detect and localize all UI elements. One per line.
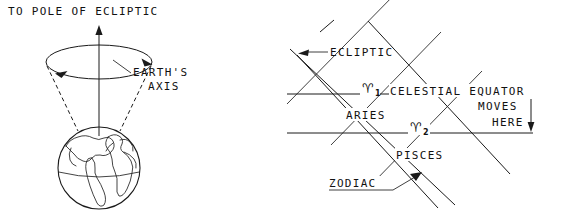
precession-figure: TO POLE OF ECLIPTIC	[0, 0, 574, 218]
earths-axis-leader	[113, 60, 131, 73]
aries-symbol-1-group: ♈ 1	[360, 80, 381, 98]
ecliptic-leader-arrowhead	[298, 50, 309, 57]
continent-na-detail	[69, 148, 76, 166]
pisces-label: PISCES	[396, 149, 444, 162]
moves-here-arrowhead	[528, 122, 535, 132]
earths-axis-label-line2: AXIS	[148, 80, 180, 93]
aries-label: ARIES	[346, 109, 386, 122]
ecliptic-label: ECLIPTIC	[330, 46, 393, 59]
ecliptic-line-stub	[320, 20, 334, 32]
aries-symbol-2-subscript: 2	[423, 128, 429, 137]
moves-label-line2: HERE	[492, 116, 524, 129]
right-panel-group: ECLIPTIC CELESTIAL EQUATOR MOVES HERE ♈ …	[287, 0, 574, 208]
earths-axis-label-line1: EARTH'S	[133, 66, 188, 79]
earth-axis-arrowhead	[95, 25, 102, 35]
earth-equator-line	[59, 172, 140, 177]
continent-greenland-detail	[106, 143, 113, 151]
celestial-equator-label: CELESTIAL EQUATOR	[390, 85, 525, 98]
continent-asia-detail	[120, 139, 133, 151]
aries-symbol-1-glyph: ♈	[362, 81, 374, 96]
left-panel-group: TO POLE OF ECLIPTIC	[8, 5, 188, 209]
aries-symbol-2-group: ♈ 2	[408, 119, 430, 137]
continent-south-america	[86, 158, 106, 206]
continent-africa-europe	[106, 135, 133, 196]
aries-symbol-2-glyph: ♈	[410, 120, 422, 135]
to-pole-of-ecliptic-label: TO POLE OF ECLIPTIC	[8, 5, 159, 18]
aries-symbol-1-subscript: 1	[375, 89, 381, 98]
zodiac-leader-diagonal	[393, 177, 415, 190]
moves-label-line1: MOVES	[478, 100, 518, 113]
zodiac-label: ZODIAC	[329, 177, 377, 190]
